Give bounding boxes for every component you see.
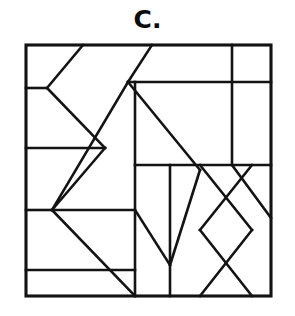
kite-vertex-to-mid-cross — [47, 88, 105, 148]
mid-cross-down-left — [52, 148, 105, 210]
v-left-arm — [135, 210, 170, 265]
figure-panel: C. — [0, 0, 295, 316]
apex-to-lower-left — [52, 82, 128, 210]
apex-diagonal-to-right — [128, 82, 200, 170]
line-puzzle-diagram — [0, 0, 295, 316]
diagram-segments — [26, 45, 271, 296]
kite-vertex-to-top-edge — [47, 45, 83, 88]
lower-left-diagonal — [52, 210, 135, 296]
right-edge-diagonal — [232, 165, 271, 218]
v-right-arm — [170, 170, 200, 265]
apex-to-top-edge — [128, 45, 152, 82]
